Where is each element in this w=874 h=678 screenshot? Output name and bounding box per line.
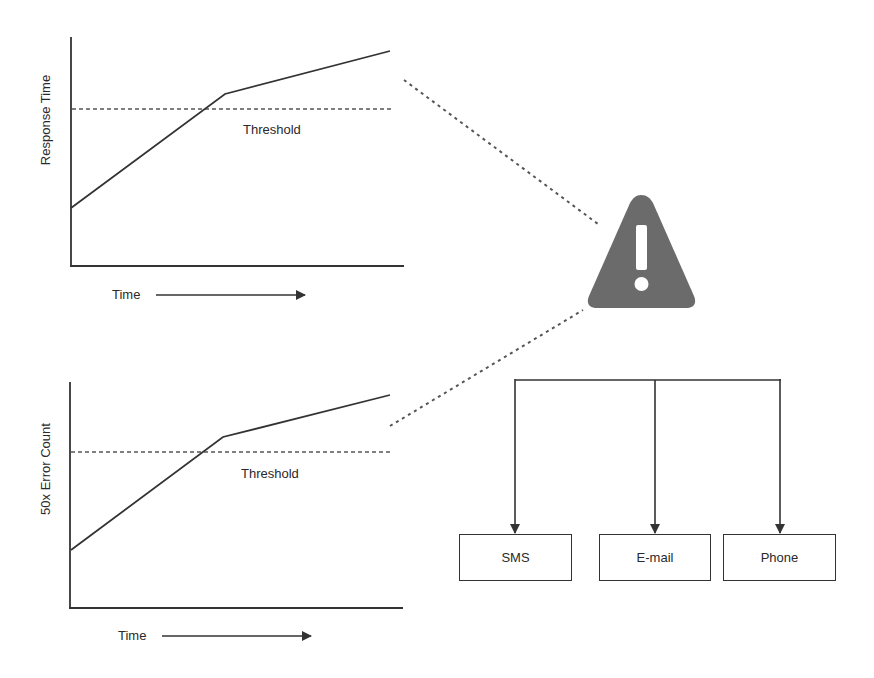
channel-email-box: E-mail xyxy=(599,534,711,581)
exclamation-bar xyxy=(636,225,647,270)
error-count-chart xyxy=(69,382,403,636)
response-time-xlabel: Time xyxy=(112,288,140,301)
response-time-ylabel: Response Time xyxy=(39,75,52,165)
response-time-chart xyxy=(70,37,404,295)
channel-phone-box: Phone xyxy=(723,534,836,581)
exclamation-dot xyxy=(635,277,649,291)
error-count-series xyxy=(71,395,390,550)
error-count-ylabel: 50x Error Count xyxy=(39,423,52,515)
arrowhead-email-icon xyxy=(650,524,660,534)
channel-sms-label: SMS xyxy=(501,550,529,565)
arrowhead-phone-icon xyxy=(775,524,785,534)
arrowhead-sms-icon xyxy=(510,524,520,534)
connector-bottom xyxy=(390,310,583,426)
error-count-threshold-label: Threshold xyxy=(241,467,299,480)
connector-top xyxy=(404,80,598,224)
channel-email-label: E-mail xyxy=(637,550,674,565)
error-count-xlabel: Time xyxy=(118,629,146,642)
notification-tree xyxy=(510,379,785,534)
response-time-series xyxy=(71,51,390,208)
warning-triangle-icon xyxy=(588,195,695,308)
channel-sms-box: SMS xyxy=(459,534,572,581)
channel-phone-label: Phone xyxy=(761,550,799,565)
response-time-threshold-label: Threshold xyxy=(243,123,301,136)
